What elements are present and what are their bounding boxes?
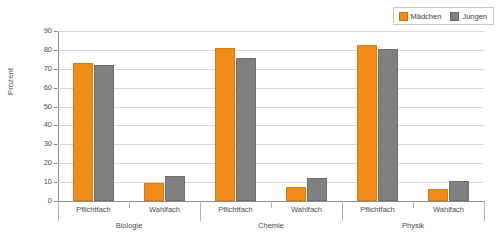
gridline [58, 144, 484, 145]
bar-jungen [307, 178, 327, 201]
y-tick-label: 90 [26, 27, 52, 35]
y-tick-label: 0 [26, 197, 52, 205]
gridline [58, 88, 484, 89]
y-tick-label-wrap: 0 [26, 197, 52, 205]
bar-jungen [449, 181, 469, 201]
gridline [58, 125, 484, 126]
y-tick-label: 80 [26, 46, 52, 54]
x-category-label: Wahlfach [129, 205, 200, 215]
bar-maedchen [73, 63, 93, 201]
y-tick-label-wrap: 60 [26, 84, 52, 92]
y-tick-label: 10 [26, 178, 52, 186]
x-category-label: Wahlfach [413, 205, 484, 215]
x-category-label: Wahlfach [271, 205, 342, 215]
bar-jungen [378, 49, 398, 201]
bar-maedchen [286, 187, 306, 201]
y-tick-label-wrap: 80 [26, 46, 52, 54]
gridline [58, 31, 484, 32]
y-axis-title: Prozent [6, 68, 15, 95]
legend-swatch-jungen [450, 12, 459, 21]
bar-chart: Mädchen Jungen Prozent 90807060504030201… [0, 0, 502, 244]
gridline [58, 182, 484, 183]
legend-label-maedchen: Mädchen [411, 12, 442, 21]
legend-item-maedchen: Mädchen [399, 12, 442, 21]
bar-maedchen [215, 48, 235, 201]
y-tick-label-wrap: 40 [26, 121, 52, 129]
y-tick-label-wrap: 90 [26, 27, 52, 35]
bar-maedchen [428, 189, 448, 201]
legend-label-jungen: Jungen [462, 12, 487, 21]
group-separator [484, 201, 485, 221]
gridline [58, 163, 484, 164]
bar-maedchen [144, 183, 164, 201]
y-tick-label-wrap: 10 [26, 178, 52, 186]
gridline [58, 69, 484, 70]
y-tick-label-wrap: 20 [26, 159, 52, 167]
y-tick-label: 70 [26, 65, 52, 73]
x-category-label: Pflichtfach [58, 205, 129, 215]
legend-swatch-maedchen [399, 12, 408, 21]
y-tick-label: 30 [26, 140, 52, 148]
chart-legend: Mädchen Jungen [393, 7, 494, 25]
x-group-label: Physik [342, 221, 484, 231]
plot-area [58, 31, 484, 201]
x-category-label: Pflichtfach [342, 205, 413, 215]
y-tick-label: 60 [26, 84, 52, 92]
x-group-label: Biologie [58, 221, 200, 231]
y-tick-label: 50 [26, 103, 52, 111]
bar-jungen [236, 58, 256, 201]
bar-maedchen [357, 45, 377, 201]
y-tick-label: 40 [26, 121, 52, 129]
group-separator [58, 201, 59, 221]
gridline [58, 50, 484, 51]
y-tick-label-wrap: 30 [26, 140, 52, 148]
y-tick-label-wrap: 70 [26, 65, 52, 73]
bar-jungen [94, 65, 114, 201]
gridline [58, 107, 484, 108]
legend-item-jungen: Jungen [450, 12, 487, 21]
x-group-label: Chemie [200, 221, 342, 231]
x-category-label: Pflichtfach [200, 205, 271, 215]
y-tick-label-wrap: 50 [26, 103, 52, 111]
bar-jungen [165, 176, 185, 201]
y-tick-label: 20 [26, 159, 52, 167]
